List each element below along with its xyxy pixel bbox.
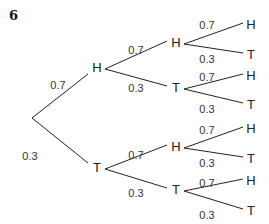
branch-edge-l1 <box>32 118 88 163</box>
outcome-node-label: T <box>172 80 180 95</box>
outcome-node-label: T <box>172 182 180 197</box>
branch-edge-l3 <box>184 148 243 157</box>
probability-label: 0.7 <box>199 71 214 83</box>
branch-edge-l2 <box>105 169 167 188</box>
branch-edge-l3 <box>184 191 243 209</box>
outcome-node-label: H <box>171 35 180 50</box>
probability-label: 0.7 <box>199 177 214 189</box>
probability-tree-diagram: 6 H0.7T0.3H0.7T0.3H0.7T0.3H0.7T0.3H0.7T0… <box>0 0 269 224</box>
outcome-node-label: T <box>247 97 255 112</box>
probability-label: 0.7 <box>199 19 214 31</box>
outcome-node-label: H <box>246 121 255 136</box>
branch-edge-l3 <box>184 44 243 53</box>
outcome-node-label: T <box>247 203 255 218</box>
tree-canvas: 6 H0.7T0.3H0.7T0.3H0.7T0.3H0.7T0.3H0.7T0… <box>0 0 269 224</box>
outcome-node-label: H <box>246 173 255 188</box>
probability-label: 0.3 <box>199 209 214 221</box>
outcome-node-label: H <box>171 139 180 154</box>
probability-label: 0.3 <box>199 103 214 115</box>
probability-label: 0.7 <box>199 124 214 136</box>
outcome-node-label: H <box>246 68 255 83</box>
probability-label: 0.3 <box>199 53 214 65</box>
tree-labels: H0.7T0.3H0.7T0.3H0.7T0.3H0.7T0.3H0.7T0.3… <box>22 17 255 220</box>
probability-label: 0.7 <box>128 149 143 161</box>
outcome-node-label: H <box>246 17 255 32</box>
probability-label: 0.3 <box>22 150 37 162</box>
probability-label: 0.3 <box>199 157 214 169</box>
probability-label: 0.3 <box>128 187 143 199</box>
question-number: 6 <box>9 8 18 23</box>
outcome-node-label: T <box>247 151 255 166</box>
outcome-node-label: H <box>92 60 101 75</box>
outcome-node-label: T <box>247 47 255 62</box>
probability-label: 0.7 <box>50 79 65 91</box>
probability-label: 0.3 <box>128 82 143 94</box>
outcome-node-label: T <box>93 160 101 175</box>
probability-label: 0.7 <box>128 44 143 56</box>
branch-edge-l3 <box>184 89 243 103</box>
